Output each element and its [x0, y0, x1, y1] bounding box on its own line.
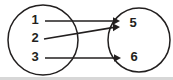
- bottom-edge-band: [0, 77, 173, 80]
- mapping-arrow-1-to-5: [45, 17, 120, 25]
- arrow-head-2-to-5: [113, 24, 120, 32]
- codomain-element-6: 6: [130, 49, 137, 64]
- mapping-diagram-figure: 1 2 3 5 6: [0, 0, 173, 80]
- diagram-canvas: 1 2 3 5 6: [0, 0, 173, 80]
- domain-element-2: 2: [31, 30, 38, 45]
- domain-set-circle: [8, 5, 78, 75]
- domain-element-3: 3: [31, 49, 38, 64]
- mapping-arrow-3-to-6: [45, 54, 121, 62]
- arrow-head-3-to-6: [114, 54, 121, 62]
- arrow-line-2-to-5: [44, 27, 114, 39]
- codomain-set-circle: [108, 8, 170, 72]
- codomain-element-5: 5: [129, 15, 136, 30]
- domain-element-1: 1: [31, 12, 38, 27]
